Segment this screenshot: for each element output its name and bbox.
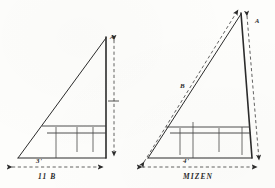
right-height-dimension-label: A bbox=[255, 18, 260, 25]
right-hypotenuse-dimension-label: B bbox=[180, 83, 185, 90]
sail-plan-figure: 3' A 11 B 4' B A MIZEN bbox=[0, 0, 275, 188]
left-batten-ticks bbox=[56, 127, 93, 158]
right-battens bbox=[166, 127, 251, 133]
right-base-dimension-label: 4' bbox=[183, 158, 190, 165]
left-base-dimension-label: 3' bbox=[36, 158, 43, 165]
right-hypotenuse-dimension bbox=[144, 10, 238, 162]
right-figure-caption: MIZEN bbox=[183, 173, 213, 181]
left-height-dimension-label: A bbox=[110, 34, 115, 41]
left-figure-caption: 11 B bbox=[38, 173, 56, 181]
right-sail-outline bbox=[148, 13, 252, 158]
left-battens bbox=[42, 126, 106, 133]
right-height-dimension bbox=[247, 16, 259, 160]
